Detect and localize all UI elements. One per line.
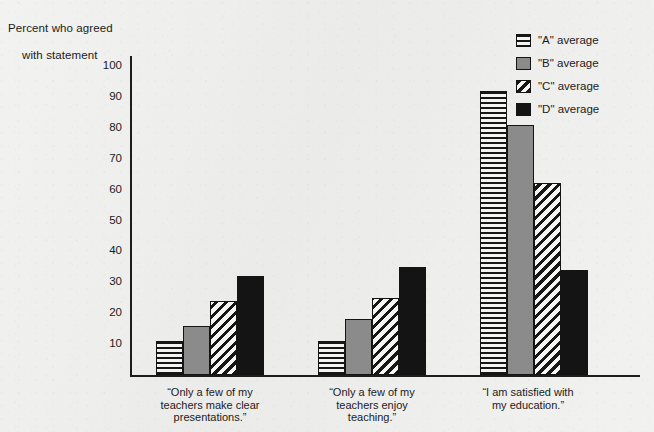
legend-item[interactable]: "A" average: [516, 30, 654, 50]
category-label-line: teachers enjoy: [292, 399, 452, 412]
bar[interactable]: [534, 183, 561, 375]
legend-item[interactable]: "B" average: [516, 53, 654, 73]
legend-swatch-icon: [516, 103, 531, 116]
category-label-line: “I am satisfied with: [448, 386, 608, 399]
bar[interactable]: [183, 326, 210, 375]
bar[interactable]: [399, 267, 426, 375]
y-axis-tick-label: 70: [88, 152, 122, 164]
legend-label: "B" average: [538, 57, 599, 69]
x-axis-category-label: “I am satisfied withmy education.”: [448, 386, 608, 411]
category-label-line: my education.”: [448, 399, 608, 412]
y-axis-tick-label: 10: [88, 337, 122, 349]
legend-swatch-icon: [516, 34, 531, 47]
category-label-line: teaching.”: [292, 411, 452, 424]
legend-label: "C" average: [538, 80, 599, 92]
bar[interactable]: [507, 125, 534, 375]
y-axis-tick-label: 40: [88, 244, 122, 256]
x-axis-category-label: “Only a few of myteachers enjoyteaching.…: [292, 386, 452, 424]
bar[interactable]: [480, 91, 507, 375]
y-axis-tick-label: 30: [88, 275, 122, 287]
bar[interactable]: [210, 301, 237, 375]
bar[interactable]: [156, 341, 183, 375]
bar-group: [156, 56, 264, 375]
legend-swatch-icon: [516, 80, 531, 93]
y-axis-tick-label: 90: [88, 90, 122, 102]
x-axis-category-label: “Only a few of myteachers make clearpres…: [130, 386, 290, 424]
bar[interactable]: [345, 319, 372, 375]
bar-group: [318, 56, 426, 375]
category-label-line: “Only a few of my: [130, 386, 290, 399]
bar[interactable]: [237, 276, 264, 375]
y-axis-tick-label: 20: [88, 306, 122, 318]
chart-legend: "A" average"B" average"C" average"D" ave…: [516, 30, 654, 122]
bar[interactable]: [318, 341, 345, 375]
legend-item[interactable]: "C" average: [516, 76, 654, 96]
y-axis-tick-label: 50: [88, 214, 122, 226]
legend-label: "A" average: [538, 34, 599, 46]
legend-item[interactable]: "D" average: [516, 99, 654, 119]
bar[interactable]: [372, 298, 399, 375]
category-label-line: teachers make clear: [130, 399, 290, 412]
y-axis-tick-label: 80: [88, 121, 122, 133]
category-label-line: presentations.”: [130, 411, 290, 424]
x-axis-category-labels: “Only a few of myteachers make clearpres…: [130, 386, 654, 432]
legend-label: "D" average: [538, 103, 599, 115]
y-axis-tick-label: 100: [88, 59, 122, 71]
category-label-line: “Only a few of my: [292, 386, 452, 399]
y-axis-tick-label: 60: [88, 183, 122, 195]
legend-swatch-icon: [516, 57, 531, 70]
bar[interactable]: [561, 270, 588, 375]
bar-chart: Percent who agreed with statement 100908…: [0, 0, 654, 432]
y-axis-tick-labels: 100908070605040302010: [0, 0, 130, 432]
